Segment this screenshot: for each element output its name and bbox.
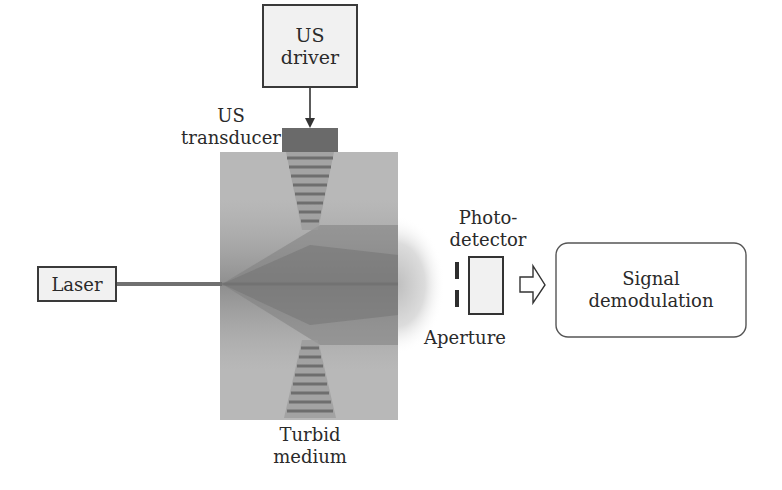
us-transducer-label: US transducer [176, 105, 286, 149]
photodetector-label-line2: detector [438, 229, 538, 251]
signal-demodulation-label-line2: demodulation [556, 290, 746, 312]
photodetector-label-line1: Photo- [438, 207, 538, 229]
aperture-label: Aperture [415, 327, 515, 349]
photodetector-label: Photo- detector [438, 207, 538, 251]
diagram-canvas [0, 0, 782, 490]
us-driver-label: US driver [264, 24, 356, 68]
us-driver-box: US driver [262, 4, 358, 88]
aperture-label-text: Aperture [424, 327, 506, 348]
laser-label: Laser [51, 274, 102, 295]
us-transducer-label-line2: transducer [176, 127, 286, 149]
photodetector [469, 257, 503, 314]
hollow-arrow-icon [520, 266, 545, 303]
turbid-medium-label-line2: medium [260, 446, 360, 468]
signal-demodulation-label: Signal demodulation [556, 268, 746, 312]
us-transducer-label-line1: US [176, 105, 286, 127]
turbid-medium-label: Turbid medium [260, 424, 360, 468]
signal-demodulation-label-line1: Signal [556, 268, 746, 290]
driver-to-transducer-arrow [305, 88, 315, 128]
aperture [455, 262, 459, 307]
laser-box: Laser [37, 266, 117, 302]
us-transducer [282, 128, 338, 152]
turbid-medium-label-line1: Turbid [260, 424, 360, 446]
